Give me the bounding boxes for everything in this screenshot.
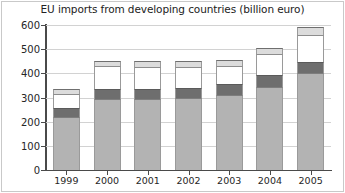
bar-2001 [134, 61, 161, 170]
x-tick-label-2000: 2000 [95, 175, 119, 186]
bar-2005 [297, 27, 324, 170]
plot-area [46, 25, 331, 170]
bar-2004 [256, 48, 283, 170]
chart-title: EU imports from developing countries (bi… [0, 3, 345, 15]
bar-2000 [94, 61, 121, 170]
bar-segment-segment-3-1999 [53, 94, 80, 109]
bar-segment-segment-2-2005 [297, 62, 324, 73]
x-tick-label-2005: 2005 [299, 175, 323, 186]
y-tick-mark [41, 98, 45, 99]
x-tick-mark [229, 171, 230, 175]
y-tick-label: 400 [6, 68, 40, 79]
bar-segment-segment-3-2002 [175, 67, 202, 88]
y-tick-label: 600 [6, 20, 40, 31]
bar-segment-segment-1-1999 [53, 117, 80, 170]
bar-segment-segment-2-2004 [256, 75, 283, 87]
y-tick-mark [41, 49, 45, 50]
x-tick-label-2004: 2004 [258, 175, 282, 186]
gridline [46, 49, 331, 50]
bar-2003 [216, 60, 243, 170]
x-tick-mark [148, 171, 149, 175]
bar-segment-segment-1-2001 [134, 99, 161, 170]
y-tick-label: 0 [6, 165, 40, 176]
x-tick-label-2001: 2001 [136, 175, 160, 186]
bar-segment-segment-4-2005 [297, 27, 324, 34]
bar-segment-segment-1-2003 [216, 95, 243, 170]
x-tick-label-1999: 1999 [54, 175, 78, 186]
bar-segment-segment-1-2004 [256, 87, 283, 170]
y-tick-mark [41, 25, 45, 26]
y-axis-labels: 0100200300400500600 [0, 0, 40, 193]
bar-segment-segment-3-2001 [134, 67, 161, 89]
bar-segment-segment-2-2002 [175, 88, 202, 98]
y-tick-mark [41, 122, 45, 123]
y-tick-label: 300 [6, 92, 40, 103]
x-tick-mark [270, 171, 271, 175]
bar-2002 [175, 61, 202, 170]
bar-segment-segment-1-2002 [175, 98, 202, 171]
bar-1999 [53, 89, 80, 170]
y-tick-mark [41, 73, 45, 74]
x-tick-mark [66, 171, 67, 175]
bar-segment-segment-2-2001 [134, 89, 161, 99]
y-tick-label: 100 [6, 140, 40, 151]
bar-segment-segment-3-2005 [297, 35, 324, 63]
bar-segment-segment-1-2005 [297, 73, 324, 170]
x-tick-label-2003: 2003 [217, 175, 241, 186]
x-tick-mark [189, 171, 190, 175]
y-tick-label: 200 [6, 116, 40, 127]
y-tick-mark [41, 170, 45, 171]
y-tick-mark [41, 146, 45, 147]
bar-segment-segment-1-2000 [94, 99, 121, 170]
bar-segment-segment-3-2003 [216, 66, 243, 84]
bar-segment-segment-3-2000 [94, 66, 121, 89]
chart-figure: EU imports from developing countries (bi… [0, 0, 345, 193]
gridline [46, 25, 331, 26]
bar-segment-segment-2-2000 [94, 89, 121, 99]
bar-segment-segment-2-2003 [216, 84, 243, 95]
x-tick-label-2002: 2002 [176, 175, 200, 186]
bar-segment-segment-3-2004 [256, 54, 283, 75]
bar-segment-segment-2-1999 [53, 108, 80, 116]
x-tick-mark [311, 171, 312, 175]
x-tick-mark [107, 171, 108, 175]
y-tick-label: 500 [6, 44, 40, 55]
